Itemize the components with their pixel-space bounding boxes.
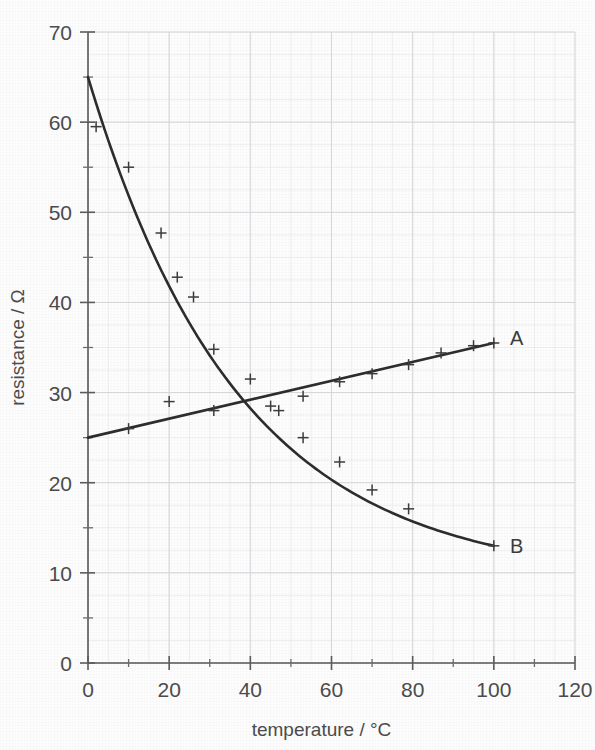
y-axis-tick-label: 10 (49, 562, 72, 585)
figure-canvas: 020406080100120010203040506070ABtemperat… (0, 0, 595, 750)
grid-layer (88, 32, 575, 663)
x-axis-tick-label: 40 (239, 678, 262, 701)
y-axis-tick-label: 30 (49, 382, 72, 405)
data-point-marker-b (367, 484, 378, 495)
ticks-layer (80, 32, 575, 670)
y-axis-tick-label: 20 (49, 472, 72, 495)
data-point-marker-a (164, 396, 175, 407)
x-axis-tick-label: 120 (557, 678, 592, 701)
y-axis-tick-label: 60 (49, 111, 72, 134)
x-axis-tick-label: 0 (82, 678, 94, 701)
series-annotation-a: A (510, 327, 524, 349)
data-point-marker-b (298, 432, 309, 443)
data-point-marker-b (245, 374, 256, 385)
y-axis-tick-label: 50 (49, 201, 72, 224)
x-axis-title: temperature / °C (252, 719, 392, 740)
x-axis-tick-label: 100 (476, 678, 511, 701)
y-axis-tick-label: 70 (49, 21, 72, 44)
x-axis-tick-label: 60 (320, 678, 343, 701)
data-point-marker-b (156, 228, 167, 239)
data-point-marker-b (334, 456, 345, 467)
series-layer (88, 77, 499, 551)
y-axis-title: resistance / Ω (7, 289, 28, 406)
data-point-marker-b (488, 540, 499, 551)
data-point-marker-a (123, 423, 134, 434)
data-point-marker-b (172, 272, 183, 283)
data-point-marker-a (488, 337, 499, 348)
chart-svg: 020406080100120010203040506070ABtemperat… (0, 0, 595, 750)
x-axis-tick-label: 20 (157, 678, 180, 701)
labels-layer: 020406080100120010203040506070ABtemperat… (7, 21, 593, 740)
y-axis-tick-label: 0 (60, 652, 72, 675)
y-axis-tick-label: 40 (49, 291, 72, 314)
series-annotation-b: B (510, 535, 523, 557)
data-point-marker-b (123, 162, 134, 173)
x-axis-tick-label: 80 (401, 678, 424, 701)
